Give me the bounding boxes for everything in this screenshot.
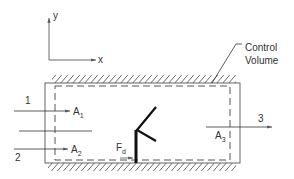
y-axis-label: y — [53, 10, 58, 21]
area-2-label: A2 — [71, 144, 82, 157]
top-wall-hatching — [52, 75, 236, 83]
stream-2-label: 2 — [15, 152, 21, 163]
x-axis-label: x — [98, 54, 103, 65]
turbine-blades — [137, 107, 156, 141]
turbine-shape — [136, 107, 156, 163]
callout-line2: Volume — [245, 55, 279, 66]
callout-line1: Control — [245, 42, 277, 53]
bottom-wall-hatching — [48, 163, 236, 171]
area-3-label: A3 — [215, 130, 226, 143]
stream-1-label: 1 — [25, 95, 31, 106]
control-volume-diagram: y x Control Volume 1 A1 2 A2 Fd 3 A3 — [0, 0, 294, 179]
stream-3-label: 3 — [258, 113, 264, 124]
area-1-label: A1 — [73, 106, 84, 119]
axes: y x — [49, 10, 103, 65]
drag-force-label: Fd — [116, 142, 126, 155]
